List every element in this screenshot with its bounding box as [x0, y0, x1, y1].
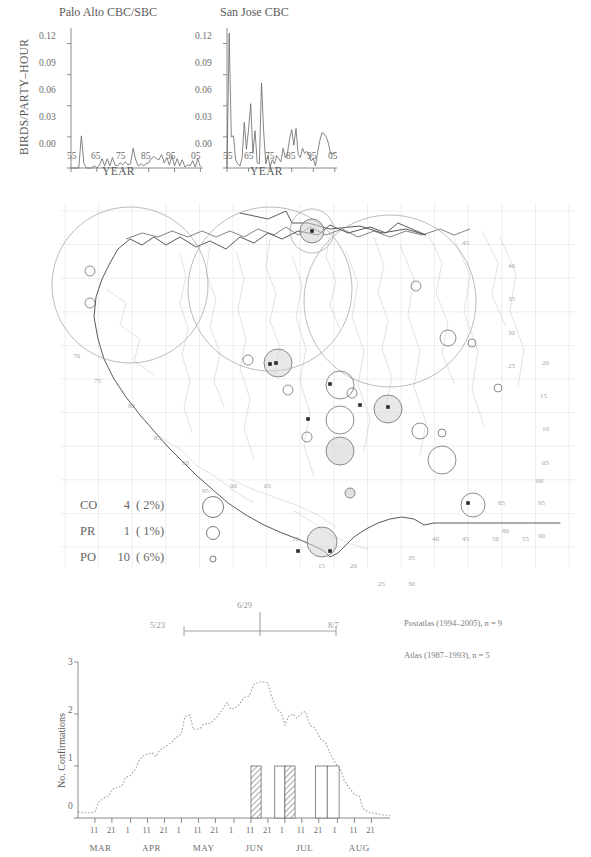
- pheno-day-tick-6: 11: [193, 825, 201, 835]
- pheno-day-tick-5: 1: [176, 825, 180, 835]
- pheno-day-tick-10: 21: [263, 825, 272, 835]
- sj-xtick-75: 75: [265, 152, 275, 162]
- pheno-ytick-3: 3: [68, 658, 73, 668]
- map-grid-label-b7: 35: [408, 554, 416, 562]
- legend-code-po: PO: [80, 550, 96, 565]
- palo-xtick-05: 05: [191, 152, 201, 162]
- cbc-charts-panel: BIRDS/PARTY–HOUR Palo Alto CBC/SBC 0.12 …: [0, 0, 340, 190]
- phenology-bar-4: [327, 766, 339, 818]
- map-grid-label-b1: 05: [264, 482, 272, 490]
- legend-symbol-large-circle: [200, 495, 228, 519]
- map-grid-label-r11: 90: [538, 532, 546, 540]
- legend-row-pr: PR 1 ( 1%): [80, 521, 240, 547]
- map-grid-label-l2: 80: [128, 402, 136, 410]
- map-grid-label-b3: 15: [318, 562, 326, 570]
- legend-code-co: CO: [80, 498, 97, 513]
- map-grid-label-r10: 95: [538, 499, 546, 507]
- species-account-figure: BIRDS/PARTY–HOUR Palo Alto CBC/SBC 0.12 …: [0, 0, 591, 857]
- legend-pct-pr: ( 1%): [136, 524, 164, 539]
- date-bar-graphic: [150, 598, 370, 640]
- map-grid-label-b8: 40: [432, 535, 440, 543]
- map-grid-label-r5: 20: [542, 359, 550, 367]
- sj-x-axis-label: YEAR: [250, 166, 283, 178]
- palo-ytick-006: 0.06: [39, 86, 56, 96]
- palo-xtick-75: 75: [116, 152, 126, 162]
- pheno-day-tick-16: 21: [366, 825, 375, 835]
- phenology-bar-3: [315, 766, 327, 818]
- pheno-ytick-2: 2: [68, 706, 73, 716]
- pheno-day-tick-12: 11: [297, 825, 305, 835]
- pheno-month-label-may: MAY: [193, 843, 215, 853]
- pheno-day-tick-9: 11: [246, 825, 254, 835]
- pheno-month-label-apr: APR: [142, 843, 161, 853]
- pheno-day-tick-1: 21: [107, 825, 116, 835]
- pheno-day-tick-3: 11: [143, 825, 151, 835]
- map-grid-label-r2: 35: [508, 295, 516, 303]
- palo-ytick-012: 0.12: [39, 32, 56, 42]
- sj-xtick-55: 55: [223, 152, 233, 162]
- chart-san-jose-title: San Jose CBC: [220, 6, 289, 18]
- pheno-ytick-1: 1: [68, 754, 73, 764]
- map-grid-label-r1: 40: [508, 262, 516, 270]
- legend-count-po: 10: [116, 550, 130, 565]
- sj-xtick-65: 65: [244, 152, 254, 162]
- legend-pct-co: ( 2%): [136, 498, 164, 513]
- phenology-bar-0: [251, 766, 261, 818]
- legend-count-pr: 1: [116, 524, 130, 539]
- pheno-month-label-mar: MAR: [89, 843, 111, 853]
- legend-row-po: PO 10 ( 6%): [80, 547, 240, 573]
- map-grid-label-r9: 00: [536, 477, 544, 485]
- palo-xtick-95: 95: [166, 152, 176, 162]
- map-grid-label-b10: 50: [492, 535, 500, 543]
- sj-ytick-009: 0.09: [195, 59, 212, 69]
- map-grid-label-b9: 45: [462, 535, 470, 543]
- palo-ytick-009: 0.09: [39, 59, 56, 69]
- legend-symbol-medium-circle: [200, 521, 228, 545]
- palo-x-axis-label: YEAR: [102, 166, 135, 178]
- pheno-day-tick-7: 21: [210, 825, 219, 835]
- sj-ytick-000: 0.00: [195, 140, 212, 150]
- palo-ytick-000: 0.00: [39, 140, 56, 150]
- palo-alto-plot-area: [71, 28, 203, 168]
- map-grid-label-r3: 30: [508, 329, 516, 337]
- map-grid-label-b13: 85: [498, 499, 506, 507]
- map-grid-label-l3: 85: [154, 434, 162, 442]
- palo-xtick-85: 85: [141, 152, 151, 162]
- pheno-day-tick-11: 1: [280, 825, 284, 835]
- sj-xtick-05: 05: [328, 152, 338, 162]
- chart-palo-alto-title: Palo Alto CBC/SBC: [59, 6, 157, 18]
- map-grid-label-b11: 55: [522, 535, 530, 543]
- map-grid-label-l1: 75: [94, 377, 102, 385]
- pheno-day-tick-0: 11: [90, 825, 98, 835]
- atlas-note: Atlas (1987–1993), n = 5: [404, 650, 502, 660]
- map-grid-label-r4: 25: [508, 362, 516, 370]
- pheno-day-tick-2: 1: [126, 825, 130, 835]
- legend-pct-po: ( 6%): [136, 550, 164, 565]
- legend-code-pr: PR: [80, 524, 95, 539]
- pheno-day-tick-15: 11: [349, 825, 357, 835]
- cbc-y-axis-label: BIRDS/PARTY–HOUR: [18, 39, 30, 155]
- legend-row-co: CO 4 ( 2%): [80, 495, 240, 521]
- legend-count-co: 4: [116, 498, 130, 513]
- sj-ytick-003: 0.03: [195, 113, 212, 123]
- map-grid-label-r7: 10: [542, 425, 550, 433]
- sj-ytick-012: 0.12: [195, 32, 212, 42]
- pheno-day-tick-13: 21: [314, 825, 323, 835]
- map-grid-label-l5: 95: [202, 487, 210, 495]
- palo-xtick-55: 55: [67, 152, 77, 162]
- pheno-ytick-0: 0: [68, 802, 73, 812]
- pheno-y-axis-label: No. Confirmations: [56, 713, 67, 788]
- sj-xtick-95: 95: [307, 152, 317, 162]
- palo-ytick-003: 0.03: [39, 113, 56, 123]
- map-grid-label-b4: 20: [350, 562, 358, 570]
- sj-ytick-006: 0.06: [195, 86, 212, 96]
- map-grid-label-b12: 80: [502, 527, 510, 535]
- confirmation-date-range-bar: 5/23 6/29 8/7: [150, 598, 370, 640]
- legend-symbol-small-circle: [200, 547, 228, 571]
- map-grid-label-b0: 00: [230, 482, 238, 490]
- phenology-bar-2: [285, 766, 295, 818]
- breeding-evidence-legend: CO 4 ( 2%) PR 1 ( 1%) PO 10 ( 6%): [80, 495, 240, 573]
- map-grid-label-r8: 05: [542, 459, 550, 467]
- phenology-chart: No. Confirmations 3 2 1 0 11211112111121…: [50, 650, 390, 845]
- map-grid-label-r0: 45: [462, 239, 470, 247]
